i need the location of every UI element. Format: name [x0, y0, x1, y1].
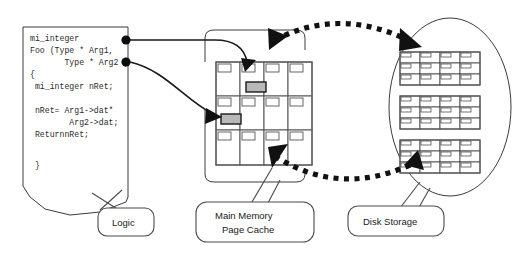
- disk-page-tab-b2r0c3: [461, 141, 471, 145]
- code-line-6: nRet= Arg1->dat*: [30, 106, 114, 115]
- callout-logic[interactable]: Logic: [92, 190, 154, 236]
- disk-page-tab-b0r0c2: [441, 53, 451, 57]
- disk-page-tab-b1r0c2: [441, 97, 451, 101]
- memory-page-tab-r1c0: [218, 98, 231, 106]
- callout-disk-label: Disk Storage: [363, 216, 417, 227]
- memory-page-tab-r1c2: [266, 98, 279, 106]
- code-line-10: }: [30, 161, 40, 170]
- code-line-1: Foo (Type * Arg1,: [30, 46, 114, 55]
- code-line-4: mi_integer nRet;: [30, 82, 114, 91]
- disk-page-tab-b1r0c3: [461, 97, 471, 101]
- memory-page-tab-r0c2: [266, 64, 279, 72]
- memory-page-tab-r2c1: [242, 132, 255, 140]
- callout-memory-label-line1: Main Memory: [215, 210, 273, 221]
- disk-page-tab-b0r0c1: [421, 53, 431, 57]
- disk-page-tab-b0r1c3: [461, 64, 471, 68]
- code-line-2: Type * Arg2 ): [30, 58, 128, 67]
- connector-dot-arg1: [121, 35, 130, 44]
- dashed-arc-out-arrowhead: [399, 28, 422, 51]
- code-line-0: mi_integer: [30, 34, 79, 43]
- disk-page-tab-b1r0c1: [421, 97, 431, 101]
- code-line-8: ReturnnRet;: [30, 130, 89, 139]
- disk-page-tab-b1r0c0: [401, 97, 411, 101]
- disk-page-tab-b1r2c0: [401, 119, 411, 123]
- disk-page-tab-b0r1c1: [421, 64, 431, 68]
- disk-page-tab-b2r0c2: [441, 141, 451, 145]
- disk-block-0: [400, 52, 480, 85]
- diagram-canvas: mi_integer Foo (Type * Arg1, Type * Arg2…: [0, 0, 524, 257]
- dashed-arc-out-tail-arrowhead: [268, 28, 288, 50]
- memory-highlight-page-a: [246, 82, 266, 92]
- solid-connector-arg1: [130, 40, 247, 62]
- memory-highlight-page-b: [221, 114, 241, 124]
- connector-dot-arg2: [121, 57, 130, 66]
- disk-page-tab-b1r2c1: [421, 119, 431, 123]
- memory-page-tab-r1c3: [290, 98, 303, 106]
- callout-memory-leader-b: [268, 180, 280, 203]
- dashed-arc-out-path: [275, 23, 412, 42]
- callout-disk-storage[interactable]: Disk Storage: [348, 182, 444, 236]
- disk-page-tab-b2r2c2: [441, 163, 451, 167]
- disk-page-tab-b0r2c0: [401, 75, 411, 79]
- disk-page-tab-b0r1c2: [441, 64, 451, 68]
- main-memory-page-cache: [205, 30, 312, 182]
- callout-memory-label-line2: Page Cache: [222, 224, 274, 235]
- disk-block-1: [400, 96, 480, 129]
- disk-page-tab-b1r1c3: [461, 108, 471, 112]
- disk-page-tab-b2r1c3: [461, 152, 471, 156]
- disk-page-tab-b1r1c2: [441, 108, 451, 112]
- disk-page-tab-b2r2c3: [461, 163, 471, 167]
- disk-page-tab-b1r1c0: [401, 108, 411, 112]
- logic-code-box: mi_integer Foo (Type * Arg1, Type * Arg2…: [23, 27, 128, 215]
- memory-page-tab-r2c3: [290, 132, 303, 140]
- memory-page-tab-r2c2: [266, 132, 279, 140]
- disk-page-tab-b0r1c0: [401, 64, 411, 68]
- disk-page-tab-b1r1c1: [421, 108, 431, 112]
- memory-page-tab-r2c0: [218, 132, 231, 140]
- memory-page-tab-r0c3: [290, 64, 303, 72]
- callout-logic-label: Logic: [112, 217, 135, 228]
- callout-memory-leader-a: [252, 168, 272, 202]
- disk-page-tab-b2r1c1: [421, 152, 431, 156]
- disk-page-tab-b0r2c2: [441, 75, 451, 79]
- diagram-svg: mi_integer Foo (Type * Arg1, Type * Arg2…: [0, 0, 524, 257]
- memory-page-tab-r1c1: [242, 98, 255, 106]
- callout-disk-leader-a: [400, 182, 420, 208]
- disk-page-tab-b1r2c2: [441, 119, 451, 123]
- memory-enclosure-top: [205, 30, 305, 62]
- disk-page-tab-b0r2c1: [421, 75, 431, 79]
- code-line-3: {: [30, 70, 35, 79]
- disk-page-tab-b0r2c3: [461, 75, 471, 79]
- solid-connector-arg2: [130, 62, 213, 114]
- disk-page-tab-b2r1c2: [441, 152, 451, 156]
- code-line-7: Arg2->dat;: [30, 118, 118, 127]
- disk-page-tab-b0r0c0: [401, 53, 411, 57]
- disk-page-tab-b2r0c1: [421, 141, 431, 145]
- disk-page-tab-b2r1c0: [401, 152, 411, 156]
- callout-main-memory[interactable]: Main Memory Page Cache: [196, 168, 314, 242]
- disk-page-tab-b2r0c0: [401, 141, 411, 145]
- disk-page-tab-b1r2c3: [461, 119, 471, 123]
- dashed-arc-memory-to-disk: [268, 23, 422, 51]
- memory-page-tab-r0c0: [218, 64, 231, 72]
- disk-page-tab-b0r0c3: [461, 53, 471, 57]
- callout-memory-box[interactable]: [196, 202, 314, 242]
